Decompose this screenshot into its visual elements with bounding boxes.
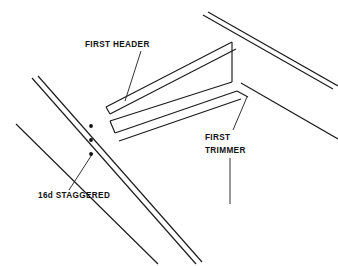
right-joist-bottom-edge	[208, 12, 338, 86]
framing-illustration: FIRST HEADER FIRST TRIMMER 16d STAGGERED	[0, 0, 338, 266]
header-top-far-edge	[106, 42, 232, 107]
nail-dot-2	[89, 138, 93, 142]
trimmer-top-far-edge	[110, 82, 232, 121]
left-joist-top-edge	[32, 78, 196, 264]
left-joist	[16, 76, 202, 264]
nail-dot-1	[89, 124, 93, 128]
header-left-end-cap	[106, 107, 110, 114]
first-header-member	[106, 42, 236, 114]
trimmer-near-top-edge	[115, 91, 237, 133]
first-trimmer-label-line2: TRIMMER	[205, 146, 246, 155]
left-joist-bottom-edge	[38, 76, 202, 262]
nail-dots-group	[89, 124, 93, 156]
trimmer-left-end-cap	[110, 121, 115, 133]
framing-diagram: FIRST HEADER FIRST TRIMMER 16d STAGGERED	[0, 0, 338, 266]
first-header-label: FIRST HEADER	[85, 40, 150, 49]
right-joist-lower-parallel	[241, 83, 338, 139]
header-top-near-edge	[110, 49, 236, 114]
first-trimmer-label-line1: FIRST	[205, 133, 230, 142]
right-joist	[203, 12, 338, 139]
nail-spec-leader-line	[69, 153, 93, 190]
first-trimmer-upper-leader-line	[233, 97, 247, 130]
right-joist-top-edge	[203, 15, 333, 89]
trimmer-to-right-joist	[237, 91, 248, 97]
nail-spec-label: 16d STAGGERED	[38, 191, 110, 200]
